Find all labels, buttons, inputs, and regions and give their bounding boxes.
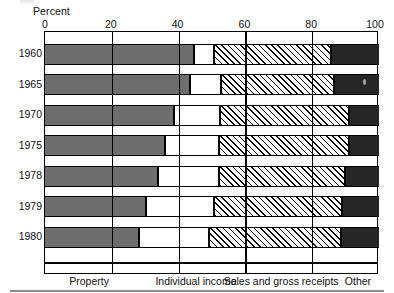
legend-label-other: Other [345, 275, 371, 288]
legend-labels: PropertyIndividual incomeSales and gross… [0, 275, 394, 289]
x-tick-label-80: 80 [305, 18, 317, 30]
year-label-1970: 1970 [19, 108, 42, 120]
bar-row [45, 105, 377, 126]
bar-row [45, 44, 377, 65]
year-label-1965: 1965 [19, 78, 42, 90]
segment-property-1970 [45, 105, 174, 126]
year-label-1960: 1960 [19, 47, 42, 59]
segment-individual-income-1975 [165, 135, 219, 156]
stacked-bar-chart: Percent 020406080100 1960196519701975197… [0, 0, 394, 293]
segment-other-1965 [334, 74, 379, 95]
segment-sales-and-gross-receipts-1975 [219, 135, 349, 156]
legend-divider-80 [312, 264, 313, 273]
x-axis-tick-labels: 020406080100 [0, 18, 394, 30]
year-label-1979: 1979 [19, 200, 42, 212]
segment-individual-income-1965 [190, 74, 221, 95]
x-tick-label-100: 100 [366, 18, 384, 30]
segment-sales-and-gross-receipts-1965 [221, 74, 334, 95]
segment-sales-and-gross-receipts-1978 [219, 166, 345, 187]
scan-artifact-speck [363, 79, 366, 85]
year-label-1980: 1980 [19, 230, 42, 242]
segment-other-1979 [342, 196, 379, 217]
x-tick-label-60: 60 [239, 18, 251, 30]
segment-individual-income-1979 [146, 196, 214, 217]
legend-label-sales-and-gross-receipts: Sales and gross receipts [224, 275, 339, 288]
legend-divider-40 [179, 264, 180, 273]
segment-property-1980 [45, 227, 139, 248]
bar-row [45, 135, 377, 156]
segment-sales-and-gross-receipts-1960 [214, 44, 331, 65]
plot-area [44, 31, 378, 263]
segment-sales-and-gross-receipts-1979 [214, 196, 342, 217]
legend-divider-60 [245, 264, 246, 273]
scan-artifact-top [20, 0, 34, 5]
x-tick-label-40: 40 [172, 18, 184, 30]
x-tick-label-20: 20 [105, 18, 117, 30]
segment-other-1970 [349, 105, 379, 126]
bar-row [45, 196, 377, 217]
legend-divider-20 [112, 264, 113, 273]
segment-other-1975 [349, 135, 379, 156]
bar-row [45, 166, 377, 187]
segment-property-1960 [45, 44, 194, 65]
footer-rule [10, 290, 384, 292]
segment-individual-income-1960 [194, 44, 214, 65]
x-axis-title: Percent [33, 6, 70, 17]
segment-property-1979 [45, 196, 146, 217]
legend-label-property: Property [69, 275, 109, 288]
segment-sales-and-gross-receipts-1980 [209, 227, 341, 248]
segment-property-1975 [45, 135, 165, 156]
segment-other-1980 [341, 227, 379, 248]
segment-property-1965 [45, 74, 190, 95]
segment-sales-and-gross-receipts-1970 [220, 105, 349, 126]
legend-swatch-strip [44, 263, 378, 274]
bar-row [45, 74, 377, 95]
segment-individual-income-1970 [174, 105, 220, 126]
segment-individual-income-1978 [158, 166, 219, 187]
segment-property-1978 [45, 166, 158, 187]
segment-other-1960 [331, 44, 379, 65]
year-label-1975: 1975 [19, 139, 42, 151]
segment-other-1978 [345, 166, 379, 187]
x-tick-label-0: 0 [42, 18, 48, 30]
segment-individual-income-1980 [139, 227, 209, 248]
bar-row [45, 227, 377, 248]
year-label-1978: 1978 [19, 169, 42, 181]
